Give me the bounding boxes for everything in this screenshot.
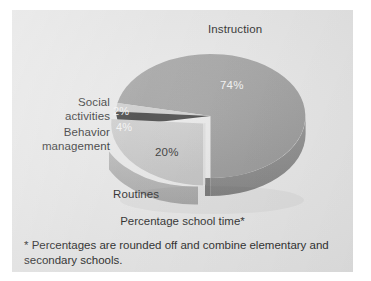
slice-value-instruction: 74% xyxy=(220,79,244,91)
slice-label-routines: Routines xyxy=(113,188,159,202)
slice-value-social: 2% xyxy=(113,105,129,117)
slice-value-routines: 20% xyxy=(155,146,179,158)
pie-chart: Instruction Social activities Behavior m… xyxy=(12,10,353,272)
figure-panel: Instruction Social activities Behavior m… xyxy=(12,10,353,272)
slice-label-social-line1: Social xyxy=(65,96,110,110)
slice-label-behavior-line1: Behavior xyxy=(42,126,110,140)
slice-label-behavior-line2: management xyxy=(42,140,110,154)
slice-label-social-line2: activities xyxy=(65,110,110,124)
slice-label-instruction: Instruction xyxy=(208,23,262,37)
chart-footnote: * Percentages are rounded off and combin… xyxy=(24,238,339,267)
slice-label-social-activities: Social activities xyxy=(65,96,110,123)
slice-label-behavior-management: Behavior management xyxy=(42,126,110,153)
slice-value-behavior: 4% xyxy=(116,121,132,133)
chart-caption: Percentage school time* xyxy=(12,215,353,227)
